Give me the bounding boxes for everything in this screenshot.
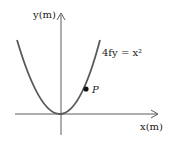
point-label: P bbox=[91, 84, 99, 95]
x-axis-label: x(m) bbox=[140, 121, 163, 132]
equation-label: 4fy = x² bbox=[102, 47, 142, 58]
parabola-diagram: P 4fy = x² y(m) x(m) bbox=[0, 0, 173, 143]
y-axis-label: y(m) bbox=[32, 9, 56, 20]
point-p-marker bbox=[83, 86, 88, 91]
parabola-curve bbox=[17, 40, 100, 114]
x-axis bbox=[15, 110, 158, 118]
y-axis bbox=[57, 13, 65, 135]
